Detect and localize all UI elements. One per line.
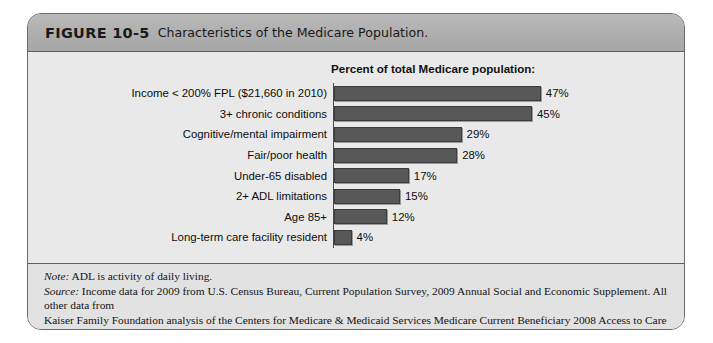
bar-category-label: 3+ chronic conditions <box>28 108 333 120</box>
bar <box>334 168 409 183</box>
bar-track: 29% <box>333 124 684 145</box>
bar <box>334 106 532 121</box>
bar-value-label: 45% <box>537 108 560 120</box>
chart-body: Percent of total Medicare population: In… <box>28 52 684 263</box>
bar-track: 47% <box>333 83 684 104</box>
source-line-1: Source: Income data for 2009 from U.S. C… <box>44 284 668 313</box>
figure-caption: Characteristics of the Medicare Populati… <box>158 25 429 40</box>
bar-value-label: 17% <box>414 170 437 182</box>
bar <box>334 86 541 101</box>
bar-row: Long-term care facility resident4% <box>28 227 684 248</box>
bar-row: 2+ ADL limitations15% <box>28 186 684 207</box>
bar-track: 15% <box>333 186 684 207</box>
bar-track: 4% <box>333 227 684 248</box>
note-line: Note: ADL is activity of daily living. <box>44 269 668 284</box>
bar-row: Income < 200% FPL ($21,660 in 2010)47% <box>28 83 684 104</box>
bar-track: 28% <box>333 145 684 166</box>
note-text: ADL is activity of daily living. <box>69 270 212 282</box>
bar-value-label: 15% <box>405 190 428 202</box>
source-text-2: Kaiser Family Foundation analysis of the… <box>44 314 667 330</box>
bar-category-label: 2+ ADL limitations <box>28 190 333 202</box>
bar-value-label: 4% <box>357 231 373 243</box>
bar-category-label: Fair/poor health <box>28 149 333 161</box>
bar <box>334 209 387 224</box>
bar <box>334 148 457 163</box>
bar-category-label: Age 85+ <box>28 211 333 223</box>
bar <box>334 230 352 245</box>
bar-chart-plot-area: Income < 200% FPL ($21,660 in 2010)47%3+… <box>28 83 684 248</box>
source-line-2: Kaiser Family Foundation analysis of the… <box>44 313 668 330</box>
bar <box>334 189 400 204</box>
bar-row: Under-65 disabled17% <box>28 165 684 186</box>
bar-category-label: Under-65 disabled <box>28 170 333 182</box>
footnote-section: Note: ADL is activity of daily living. S… <box>28 263 684 329</box>
bar-track: 45% <box>333 104 684 125</box>
source-tag: Source: <box>44 285 79 297</box>
figure-number: FIGURE 10-5 <box>45 25 150 41</box>
note-tag: Note: <box>44 270 69 282</box>
bar-value-label: 12% <box>392 211 415 223</box>
bar-track: 12% <box>333 207 684 228</box>
bar-value-label: 47% <box>546 87 569 99</box>
bar-row: Fair/poor health28% <box>28 145 684 166</box>
figure-frame: FIGURE 10-5 Characteristics of the Medic… <box>27 13 685 330</box>
bar-category-label: Cognitive/mental impairment <box>28 128 333 140</box>
bar <box>334 127 462 142</box>
chart-title: Percent of total Medicare population: <box>331 62 535 75</box>
bar-value-label: 28% <box>462 149 485 161</box>
bar-row: Age 85+12% <box>28 207 684 228</box>
figure-header-band: FIGURE 10-5 Characteristics of the Medic… <box>28 14 684 52</box>
bar-category-label: Long-term care facility resident <box>28 231 333 243</box>
bar-row: 3+ chronic conditions45% <box>28 104 684 125</box>
bar-category-label: Income < 200% FPL ($21,660 in 2010) <box>28 87 333 99</box>
bar-value-label: 29% <box>467 128 490 140</box>
bar-row: Cognitive/mental impairment29% <box>28 124 684 145</box>
source-text-1: Income data for 2009 from U.S. Census Bu… <box>44 285 667 312</box>
bar-track: 17% <box>333 165 684 186</box>
